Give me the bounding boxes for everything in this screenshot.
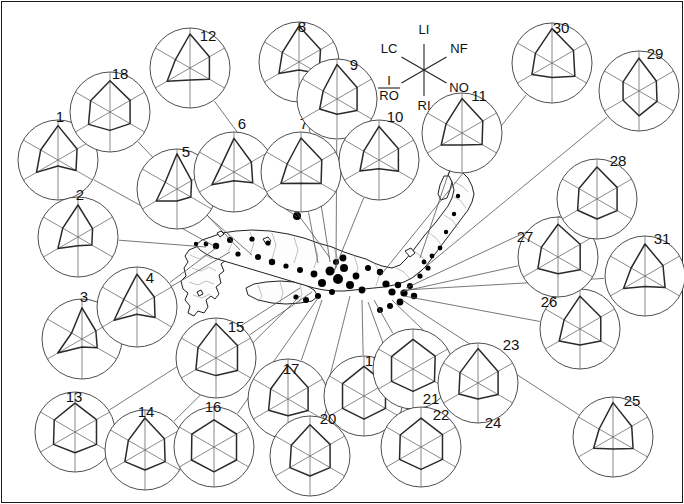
radar-label-4: 4 (146, 269, 154, 286)
key-label-NO: NO (449, 80, 469, 95)
radar-label-14: 14 (138, 403, 155, 420)
radar-label-28: 28 (610, 152, 627, 169)
radar-label-2: 2 (76, 186, 84, 203)
leader-line-2 (119, 240, 206, 247)
key-axis-LC (401, 57, 424, 70)
radar-label-3: 3 (80, 288, 88, 305)
key-label-LI: LI (419, 22, 430, 37)
radar-label-10: 10 (387, 108, 404, 125)
key-label-RO: RO (379, 88, 399, 103)
leader-line-26 (404, 296, 540, 321)
radar-label-9: 9 (350, 56, 358, 73)
key-label-LC: LC (381, 41, 398, 56)
radar-label-25: 25 (624, 392, 641, 409)
radar-label-21: 21 (423, 390, 440, 407)
radar-label-15: 15 (228, 318, 245, 335)
radar-label-23: 23 (503, 336, 520, 353)
radar-label-1: 1 (56, 108, 64, 125)
key-label-NF: NF (450, 41, 467, 56)
radar-label-29: 29 (647, 45, 664, 62)
figure-canvas: 1234567891011121314151617181920212223242… (0, 0, 684, 504)
key-axis-NF (424, 57, 447, 70)
radar-label-5: 5 (182, 143, 190, 160)
radar-label-31: 31 (654, 230, 671, 247)
radar-label-24: 24 (485, 414, 502, 431)
radar-label-11: 11 (471, 87, 487, 104)
key-axis-I-RO (401, 70, 424, 83)
key-label-I: I (387, 73, 391, 88)
leader-line-19 (362, 300, 363, 355)
radar-label-27: 27 (517, 228, 534, 245)
radar-label-6: 6 (238, 115, 246, 132)
key-label-RI: RI (418, 98, 431, 113)
radar-label-12: 12 (200, 27, 217, 44)
leader-line-17 (301, 300, 322, 360)
radar-label-16: 16 (205, 398, 222, 415)
radar-label-18: 18 (112, 65, 129, 82)
figure-root: 1234567891011121314151617181920212223242… (0, 0, 684, 504)
radar-label-17: 17 (283, 360, 300, 377)
radar-label-8: 8 (298, 18, 306, 35)
radar-label-30: 30 (553, 19, 570, 36)
radar-label-20: 20 (320, 410, 337, 427)
radar-label-13: 13 (66, 388, 83, 405)
key-axis-NO (424, 70, 447, 83)
